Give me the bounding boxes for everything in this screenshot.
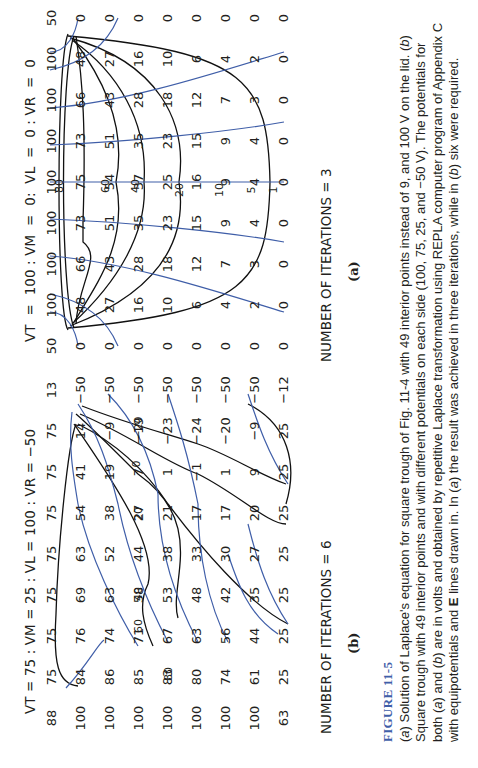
- potential-value: 74: [217, 660, 235, 694]
- potential-value: 23: [159, 206, 177, 240]
- potential-value: 4: [246, 206, 264, 240]
- potential-value: −50: [188, 373, 206, 407]
- potential-value: 48: [72, 42, 90, 76]
- potential-value: 15: [188, 206, 206, 240]
- potential-value: 75: [43, 455, 61, 489]
- potential-value: −12: [275, 373, 293, 407]
- potential-value: 4: [217, 42, 235, 76]
- potential-value: 100: [101, 701, 119, 735]
- potential-value: 28: [130, 247, 148, 281]
- potential-value: 50: [43, 1, 61, 35]
- potential-value: 43: [101, 247, 119, 281]
- potential-value: 0: [72, 1, 90, 35]
- potential-value: 100: [188, 701, 206, 735]
- potential-value: 100: [43, 247, 61, 281]
- potential-value: −1: [188, 455, 206, 489]
- potential-value: 25: [275, 578, 293, 612]
- potential-value: 0: [217, 329, 235, 363]
- panel-b-iteration-count: NUMBER OF ITERATIONS = 6: [318, 540, 334, 734]
- potential-value: 3: [246, 247, 264, 281]
- potential-value: 44: [246, 619, 264, 653]
- potential-value: 100: [217, 701, 235, 735]
- potential-value: 10: [159, 288, 177, 322]
- potential-value: 12: [188, 247, 206, 281]
- potential-value: 0: [275, 288, 293, 322]
- potential-value: 0: [246, 1, 264, 35]
- potential-value: 20: [246, 496, 264, 530]
- potential-value: 75: [43, 414, 61, 448]
- potential-value: −9: [246, 414, 264, 448]
- potential-value: 33: [188, 537, 206, 571]
- potential-value: 76: [72, 619, 90, 653]
- potential-value: 75: [43, 496, 61, 530]
- panel-a-label: (a): [346, 261, 361, 282]
- potential-value: 18: [159, 247, 177, 281]
- potential-value: 2: [246, 288, 264, 322]
- potential-value: 7: [217, 247, 235, 281]
- potential-value: 0: [188, 329, 206, 363]
- potential-value: 17: [217, 496, 235, 530]
- potential-value: 9: [217, 124, 235, 158]
- potential-value: 27: [101, 42, 119, 76]
- potential-value: 0: [275, 1, 293, 35]
- potential-value: 0: [101, 1, 119, 35]
- potential-value: 48: [72, 288, 90, 322]
- potential-value: 2: [246, 42, 264, 76]
- potential-value: 0: [217, 1, 235, 35]
- potential-value: 74: [101, 619, 119, 653]
- potential-value: 100: [43, 288, 61, 322]
- potential-value: 63: [188, 619, 206, 653]
- potential-value: 88: [43, 701, 61, 735]
- potential-value: 44: [130, 537, 148, 571]
- potential-value: 9: [246, 455, 264, 489]
- equipotential-label: 80: [160, 657, 178, 691]
- figure-caption: FIGURE 11-5 (a) Solution of Laplace's eq…: [380, 22, 462, 742]
- potential-value: 0: [275, 206, 293, 240]
- potential-value: 51: [101, 206, 119, 240]
- potential-value: 1: [159, 455, 177, 489]
- potential-value: 25: [275, 414, 293, 448]
- equipotential-label: 5: [243, 173, 261, 207]
- figure-label: FIGURE 11-5: [380, 22, 396, 742]
- potential-value: 100: [43, 124, 61, 158]
- potential-value: −50: [130, 373, 148, 407]
- potential-value: −9: [101, 414, 119, 448]
- potential-value: 16: [130, 288, 148, 322]
- potential-value: 0: [72, 329, 90, 363]
- potential-value: 1: [217, 455, 235, 489]
- potential-value: 27: [101, 288, 119, 322]
- potential-value: −50: [159, 373, 177, 407]
- potential-value: 75: [43, 578, 61, 612]
- potential-value: 35: [130, 206, 148, 240]
- potential-value: 0: [275, 329, 293, 363]
- potential-value: 66: [72, 247, 90, 281]
- potential-value: 80: [188, 660, 206, 694]
- potential-value: 50: [43, 329, 61, 363]
- potential-value: 100: [130, 701, 148, 735]
- potential-value: 86: [101, 660, 119, 694]
- equipotential-label: 20: [171, 173, 189, 207]
- potential-value: 0: [159, 329, 177, 363]
- potential-value: 15: [188, 124, 206, 158]
- potential-value: 56: [217, 619, 235, 653]
- caption-text: (a) Solution of Laplace's equation for s…: [397, 23, 461, 742]
- potential-value: 6: [188, 288, 206, 322]
- potential-value: 21: [159, 496, 177, 530]
- potential-value: −23: [159, 414, 177, 448]
- rotated-textbook-page: VT = 100 : VM = 0: VL = 0 : VR = 0: [0, 0, 478, 768]
- potential-value: 66: [72, 83, 90, 117]
- potential-value: 14: [72, 414, 90, 448]
- potential-value: 6: [188, 42, 206, 76]
- potential-value: 67: [159, 619, 177, 653]
- potential-value: 9: [217, 206, 235, 240]
- potential-value: 53: [159, 578, 177, 612]
- potential-value: 100: [43, 83, 61, 117]
- potential-value: 85: [130, 660, 148, 694]
- potential-value: 100: [72, 701, 90, 735]
- panel-a-iteration-count: NUMBER OF ITERATIONS = 3: [318, 168, 334, 362]
- potential-value: 52: [101, 537, 119, 571]
- potential-value: 13: [43, 373, 61, 407]
- potential-value: 25: [275, 537, 293, 571]
- potential-value: 35: [246, 578, 264, 612]
- potential-value: −50: [101, 373, 119, 407]
